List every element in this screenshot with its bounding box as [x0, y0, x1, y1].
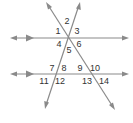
angle-label: 14	[99, 77, 109, 86]
geometry-diagram: 1 2 3 4 5 6 7 8 9 10 11 12 13 14	[0, 0, 133, 123]
arrowhead-up-icon	[76, 2, 81, 10]
parallel-marker-icon	[26, 71, 34, 78]
arrowhead-left-icon	[10, 36, 17, 41]
parallel-line-bottom	[10, 71, 129, 78]
arrowhead-right-icon	[122, 36, 129, 41]
angle-label: 7	[49, 64, 54, 73]
angle-label: 13	[82, 77, 92, 86]
angle-label: 3	[74, 27, 79, 36]
angle-label: 5	[66, 46, 71, 55]
angle-label: 11	[39, 77, 48, 86]
transversal-falling	[46, 2, 115, 110]
angle-label: 2	[64, 17, 69, 26]
arrowhead-down-icon	[109, 103, 115, 111]
angle-label: 4	[56, 40, 61, 49]
angle-label: 1	[55, 27, 60, 36]
angle-label: 6	[76, 40, 81, 49]
arrowhead-right-icon	[122, 72, 129, 77]
arrowhead-left-icon	[10, 72, 17, 77]
parallel-marker-icon	[26, 35, 34, 42]
transversal-rising	[44, 2, 81, 109]
angle-label: 8	[61, 64, 66, 73]
angle-label: 10	[90, 64, 100, 73]
angle-label: 12	[55, 77, 65, 86]
arrowhead-down-icon	[44, 101, 49, 109]
arrowhead-up-icon	[46, 2, 52, 10]
angle-label: 9	[77, 64, 82, 73]
